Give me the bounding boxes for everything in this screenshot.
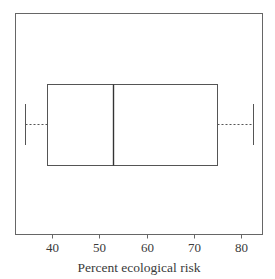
- x-tick-label: 70: [188, 240, 201, 255]
- box-plot: [26, 85, 254, 166]
- box-plot-chart: 4050607080 Percent ecological risk: [0, 0, 275, 279]
- interquartile-box: [48, 85, 218, 166]
- x-tick-label: 40: [46, 240, 59, 255]
- x-axis-ticks: [53, 235, 242, 239]
- x-axis-title: Percent ecological risk: [78, 260, 201, 275]
- x-tick-label: 80: [235, 240, 248, 255]
- x-tick-label: 60: [141, 240, 154, 255]
- x-tick-label: 50: [93, 240, 106, 255]
- plot-frame: [16, 14, 263, 235]
- x-axis-tick-labels: 4050607080: [46, 240, 248, 255]
